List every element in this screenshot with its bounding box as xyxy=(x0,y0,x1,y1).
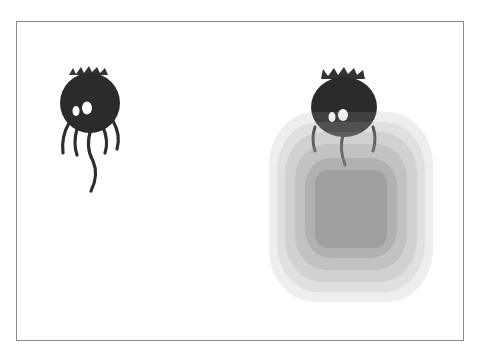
creature-eye-left xyxy=(73,106,80,116)
glow-effect xyxy=(269,112,433,302)
glow-layer-6 xyxy=(315,170,387,248)
creature-eye-right xyxy=(82,102,92,115)
game-viewport[interactable] xyxy=(16,21,464,341)
creature-sprite-left[interactable] xyxy=(55,65,125,195)
